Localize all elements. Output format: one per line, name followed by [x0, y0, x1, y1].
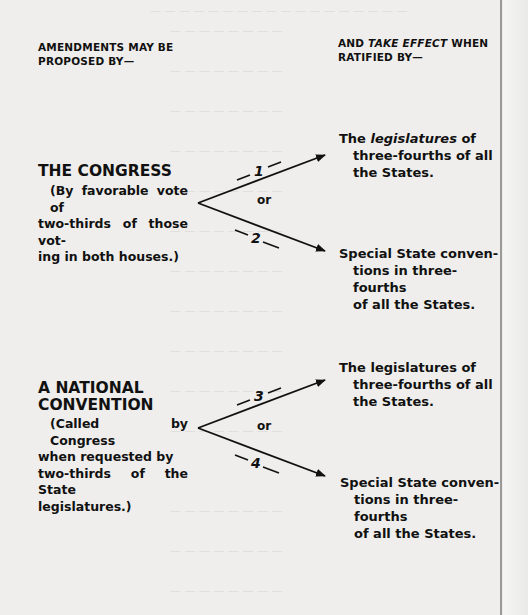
dash-mark — [235, 230, 248, 235]
dash-mark — [237, 175, 250, 180]
connector-diagram — [0, 0, 528, 615]
dash-mark — [268, 162, 281, 167]
arrow-method-2 — [198, 203, 325, 251]
method-number-1: 1 — [254, 163, 264, 179]
dash-mark — [235, 455, 248, 460]
method-number-3: 3 — [254, 388, 264, 404]
method-number-4: 4 — [251, 455, 261, 471]
dash-mark — [268, 388, 281, 393]
arrow-method-4 — [198, 428, 325, 476]
or-label-congress: or — [257, 193, 271, 207]
dash-mark — [263, 242, 279, 248]
dash-mark — [237, 400, 250, 405]
or-label-convention: or — [257, 419, 271, 433]
method-number-2: 2 — [251, 230, 261, 246]
dash-mark — [263, 467, 279, 473]
